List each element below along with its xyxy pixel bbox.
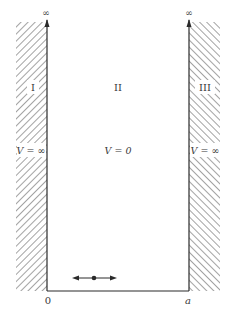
region-iii-label: III: [199, 82, 211, 93]
particle-dot-icon: [92, 276, 97, 281]
x-tick-a-label: a: [185, 295, 191, 306]
region-ii-label: II: [114, 82, 122, 93]
region-i-potential-label: V = ∞: [17, 145, 46, 156]
left-infinity-label: ∞: [42, 8, 50, 18]
region-ii-potential-label: V = 0: [105, 145, 132, 156]
x-tick-zero-label: 0: [45, 295, 51, 306]
infinite-square-well-diagram: ∞ ∞ I II III V = ∞ V = 0 V = ∞ 0 a: [0, 0, 234, 314]
region-i-label: I: [31, 82, 35, 93]
right-infinity-label: ∞: [185, 8, 193, 18]
region-iii-potential-label: V = ∞: [191, 145, 220, 156]
particle-arrow-icon: [72, 276, 117, 281]
